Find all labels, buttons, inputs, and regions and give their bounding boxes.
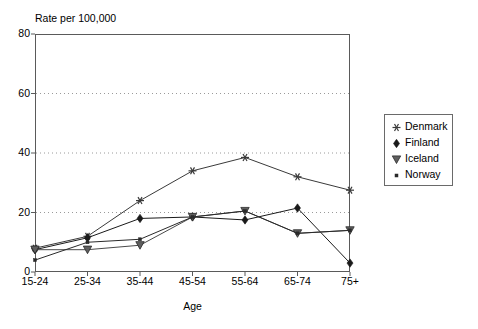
legend-item-finland[interactable]: Finland — [390, 135, 439, 150]
legend-label: Iceland — [405, 152, 439, 165]
asterisk-marker — [189, 167, 197, 174]
asterisk-marker — [241, 154, 249, 161]
filled-diamond-marker — [347, 259, 353, 267]
small-dot-marker — [139, 238, 142, 241]
filled-diamond-marker — [137, 214, 143, 222]
series-norway — [34, 210, 352, 262]
legend-label: Norway — [405, 168, 441, 181]
small-dot-marker — [390, 168, 403, 181]
filled-diamond-marker — [390, 136, 403, 149]
asterisk-marker — [393, 124, 401, 131]
line-chart: Rate per 100,000 020406080 15-2425-3435-… — [0, 0, 478, 329]
legend-label: Denmark — [405, 120, 448, 133]
legend-item-iceland[interactable]: Iceland — [390, 151, 439, 166]
small-dot-marker — [244, 210, 247, 213]
legend-label: Finland — [405, 136, 439, 149]
legend-item-denmark[interactable]: Denmark — [390, 119, 448, 134]
asterisk-marker — [346, 187, 354, 194]
small-dot-marker — [296, 232, 299, 235]
filled-diamond-marker — [394, 139, 400, 147]
filled-diamond-marker — [295, 204, 301, 212]
filled-diamond-marker — [242, 216, 248, 224]
small-dot-marker — [395, 174, 398, 177]
series-denmark — [31, 154, 354, 252]
legend-item-norway[interactable]: Norway — [390, 167, 441, 182]
small-dot-marker — [349, 229, 352, 232]
asterisk-marker — [294, 173, 302, 180]
small-dot-marker — [86, 241, 89, 244]
asterisk-marker — [390, 120, 403, 133]
small-dot-marker — [191, 215, 194, 218]
filled-down-triangle-marker — [390, 152, 403, 165]
legend: DenmarkFinlandIcelandNorway — [384, 114, 453, 186]
filled-down-triangle-marker — [392, 156, 400, 164]
small-dot-marker — [34, 259, 37, 262]
series-iceland — [31, 207, 354, 253]
